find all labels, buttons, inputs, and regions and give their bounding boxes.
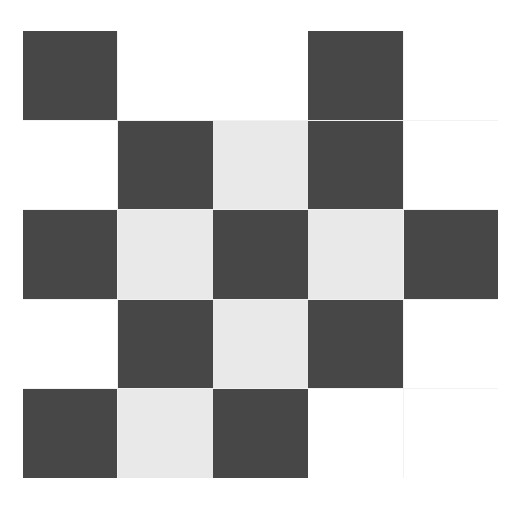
grid-cell-r1-c1 [23,31,117,120]
grid-cell-r3-c1 [23,210,117,299]
grid-cell-r2-c3 [213,121,307,210]
grid-cell-r1-c3 [213,31,307,120]
grid-cell-r2-c1 [23,121,117,210]
grid-cell-r3-c2 [118,210,212,299]
grid-cell-r2-c5 [404,121,498,210]
grid-cell-r5-c3 [213,389,307,478]
grid-cell-r4-c4 [308,300,402,389]
checkerboard-grid [23,31,498,478]
grid-cell-r3-c4 [308,210,402,299]
grid-cell-r4-c3 [213,300,307,389]
grid-cell-r5-c1 [23,389,117,478]
grid-cell-r2-c4 [308,121,402,210]
figure-canvas [0,0,523,505]
grid-cell-r2-c2 [118,121,212,210]
grid-cell-r5-c2 [118,389,212,478]
grid-cell-r1-c5 [404,31,498,120]
grid-cell-r3-c5 [404,210,498,299]
grid-cell-r1-c4 [308,31,402,120]
grid-cell-r4-c2 [118,300,212,389]
grid-cell-r5-c5 [404,389,498,478]
grid-cell-r5-c4 [308,389,402,478]
grid-cell-r3-c3 [213,210,307,299]
grid-cell-r1-c2 [118,31,212,120]
grid-cell-r4-c1 [23,300,117,389]
grid-cell-r4-c5 [404,300,498,389]
